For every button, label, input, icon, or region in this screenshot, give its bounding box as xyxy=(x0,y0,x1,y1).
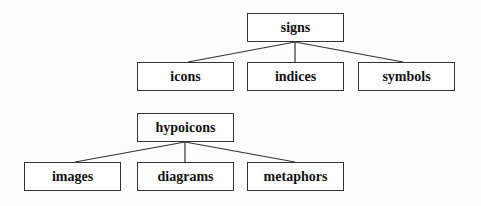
node-icons: icons xyxy=(137,62,234,91)
edge-hypoicons-images xyxy=(75,142,185,162)
node-label: symbols xyxy=(382,69,430,85)
node-label: indices xyxy=(275,69,316,85)
node-signs: signs xyxy=(247,13,344,42)
edge-signs-symbols xyxy=(295,42,403,62)
node-symbols: symbols xyxy=(358,62,455,91)
edge-signs-icons xyxy=(188,42,295,62)
node-label: signs xyxy=(281,20,311,36)
node-images: images xyxy=(24,162,121,191)
node-label: hypoicons xyxy=(156,120,216,136)
node-indices: indices xyxy=(247,62,344,91)
node-label: icons xyxy=(170,69,200,85)
node-diagrams: diagrams xyxy=(137,162,234,191)
node-label: images xyxy=(52,169,93,185)
node-label: diagrams xyxy=(158,169,214,185)
edge-hypoicons-metaphors xyxy=(185,142,295,162)
node-label: metaphors xyxy=(264,169,328,185)
node-metaphors: metaphors xyxy=(247,162,344,191)
node-hypoicons: hypoicons xyxy=(137,113,234,142)
